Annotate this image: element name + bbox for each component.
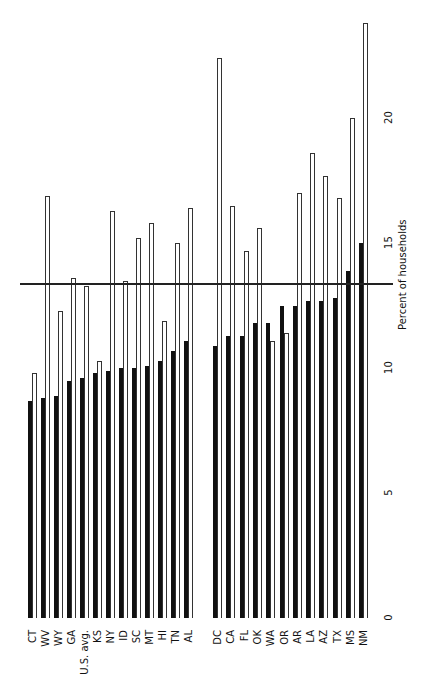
category-label: U.S. avg. [80, 630, 90, 675]
bar-white [136, 238, 141, 618]
category-label: AZ [319, 630, 329, 644]
category-label: MT [145, 630, 155, 645]
bar-white [363, 23, 368, 618]
bar-white [350, 118, 355, 618]
category-label: TN [171, 630, 181, 644]
category-label: AR [293, 630, 303, 644]
y-tick-label: 20 [383, 108, 394, 128]
bar-white [175, 243, 180, 618]
category-label: DC [213, 630, 223, 645]
bar-white [230, 206, 235, 619]
category-label: HI [158, 630, 168, 640]
bar-white [110, 211, 115, 619]
bar-white [188, 208, 193, 618]
y-tick-label: 0 [383, 608, 394, 628]
category-label: OR [280, 630, 290, 645]
category-label: WA [266, 630, 276, 646]
category-label: OK [253, 630, 263, 644]
bar-white [71, 278, 76, 618]
category-label: ID [119, 630, 129, 641]
category-label: LA [306, 630, 316, 643]
y-tick-label: 10 [383, 358, 394, 378]
bar-white [162, 321, 167, 619]
category-label: SC [132, 630, 142, 643]
bar-white [32, 373, 37, 618]
bar-white [84, 286, 89, 619]
category-label: NY [106, 630, 116, 644]
category-label: WY [54, 630, 64, 646]
y-tick-label: 5 [383, 483, 394, 503]
category-label: CT [28, 630, 38, 643]
category-label: FL [240, 630, 250, 641]
bar-white [123, 281, 128, 619]
bar-white [97, 361, 102, 619]
y-axis-label: Percent of households [397, 219, 408, 330]
bar-white [45, 196, 50, 619]
y-tick-label: 15 [383, 233, 394, 253]
bar-white [270, 341, 275, 619]
category-label: KS [93, 630, 103, 643]
category-label: GA [67, 630, 77, 645]
category-label: CA [226, 630, 236, 644]
bar-white [297, 193, 302, 618]
bar-white [310, 153, 315, 618]
category-label: NM [359, 630, 369, 646]
bar-white [323, 176, 328, 619]
category-label: MS [346, 630, 356, 645]
bar-white [244, 251, 249, 619]
bar-white [337, 198, 342, 618]
bar-white [284, 333, 289, 618]
category-label: TX [333, 630, 343, 643]
category-label: AL [184, 630, 194, 642]
bar-white [217, 58, 222, 618]
reference-line [20, 283, 393, 285]
bar-white [257, 228, 262, 618]
category-label: WV [41, 630, 51, 647]
bar-chart: CTWVWYGAU.S. avg.KSNYIDSCMTHITNALDCCAFLO… [0, 0, 429, 697]
bar-white [58, 311, 63, 619]
